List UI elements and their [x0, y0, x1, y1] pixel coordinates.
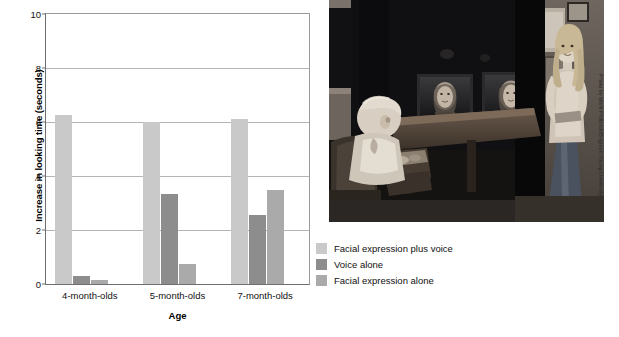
- x-axis-group-label: 7-month-olds: [237, 290, 292, 301]
- y-axis-tick-label: 6: [36, 117, 41, 128]
- legend-swatch: [316, 259, 327, 270]
- legend-item: Voice alone: [316, 257, 506, 272]
- bar-chart: Increase in looking time (seconds) 02468…: [0, 0, 330, 337]
- legend-label: Facial expression plus voice: [334, 243, 453, 254]
- bar: [143, 122, 160, 284]
- photo-image: [329, 0, 604, 222]
- legend-label: Voice alone: [334, 259, 383, 270]
- y-axis-tick-label: 10: [30, 9, 41, 20]
- y-axis-tick-label: 4: [36, 171, 41, 182]
- legend-label: Facial expression alone: [334, 275, 434, 286]
- legend-item: Facial expression alone: [316, 273, 506, 288]
- bar: [179, 264, 196, 284]
- x-axis-title: Age: [45, 310, 310, 321]
- bar: [91, 280, 108, 284]
- research-photo: [329, 0, 604, 222]
- figure-bar-chart-with-photo: Increase in looking time (seconds) 02468…: [0, 0, 619, 337]
- bar: [249, 215, 266, 284]
- x-axis-group-label: 5-month-olds: [150, 290, 205, 301]
- bar-group: 7-month-olds: [221, 14, 309, 284]
- bar: [267, 190, 284, 285]
- bar: [55, 115, 72, 284]
- y-axis-title: Increase in looking time (seconds): [33, 46, 44, 246]
- bar-group: 5-month-olds: [134, 14, 222, 284]
- photo-credit: Photo by Mark Philbrick/Brigham Young Un…: [598, 74, 604, 234]
- bar: [161, 194, 178, 284]
- legend-item: Facial expression plus voice: [316, 241, 506, 256]
- legend-swatch: [316, 275, 327, 286]
- y-axis-tick-label: 0: [36, 279, 41, 290]
- chart-legend: Facial expression plus voiceVoice aloneF…: [316, 241, 506, 289]
- plot-area: 0246810 4-month-olds5-month-olds7-month-…: [45, 13, 310, 285]
- bar: [231, 119, 248, 284]
- y-axis-tick-label: 2: [36, 225, 41, 236]
- x-axis-group-label: 4-month-olds: [62, 290, 117, 301]
- bar-group: 4-month-olds: [46, 14, 134, 284]
- legend-swatch: [316, 243, 327, 254]
- y-axis-tick-label: 8: [36, 63, 41, 74]
- bar: [73, 276, 90, 284]
